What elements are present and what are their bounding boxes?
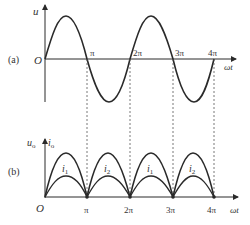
panel-a-tick-2pi: 2π [133,48,143,58]
rectifier-waveform-diagram: u (a) O π 2π 3π 4π ωt uo io [0,0,250,225]
panel-b-tick-pi: π [84,205,89,215]
panel-b-y-label-u: uo [27,137,36,150]
panel-b-x-label: ωt [230,205,239,215]
panel-a-tick-3pi: 3π [175,48,185,58]
panel-b: uo io (b) i1 i2 i1 i2 O π 2π 3π 4π ωt [8,137,239,215]
panel-a-x-label: ωt [224,62,233,72]
arch-label-4: i2 [189,163,196,176]
panel-a-tick-4pi: 4π [208,48,218,58]
panel-a-y-label: u [33,5,39,17]
panel-a-origin: O [34,54,42,66]
arch-label-3: i1 [147,163,154,176]
arch-label-1: i1 [62,163,69,176]
panel-b-tick-2pi: 2π [124,205,134,215]
panel-b-voltage-curve [45,153,214,197]
panel-b-origin: O [36,202,44,214]
panel-a: u (a) O π 2π 3π 4π ωt [8,5,236,102]
panel-a-tick-pi: π [90,48,95,58]
panel-b-tag: (b) [8,166,20,178]
panel-b-y-label-i: io [48,137,55,150]
panel-b-tick-4pi: 4π [207,205,217,215]
arch-label-2: i2 [104,163,111,176]
panel-a-tag: (a) [8,54,19,66]
panel-b-tick-3pi: 3π [166,205,176,215]
